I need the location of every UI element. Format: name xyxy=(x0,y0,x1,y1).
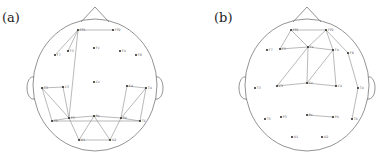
head-outline xyxy=(33,19,157,151)
electrode-label: P4 xyxy=(335,115,339,119)
connection-edge xyxy=(68,30,78,51)
connection-edge xyxy=(333,50,336,86)
electrode-t5 xyxy=(264,118,266,120)
electrode-fp2 xyxy=(112,29,114,31)
connection-edge xyxy=(42,88,69,118)
connection-edge xyxy=(42,88,52,121)
electrode-label: O1 xyxy=(294,135,299,139)
connection-edge xyxy=(307,50,333,83)
electrode-label: T3 xyxy=(256,86,261,90)
electrode-pz xyxy=(306,114,308,116)
electrode-label: F4 xyxy=(335,48,339,52)
connection-edge xyxy=(110,118,121,140)
electrode-fp1 xyxy=(290,29,292,31)
electrode-label: F3 xyxy=(70,49,74,53)
electrode-c4 xyxy=(126,85,128,87)
electrode-label: Pz xyxy=(96,114,100,118)
electrode-p4 xyxy=(332,116,334,118)
electrode-t4 xyxy=(357,87,359,89)
electrode-label: C3 xyxy=(279,84,283,88)
connection-edge xyxy=(348,53,358,88)
electrode-label: Pz xyxy=(309,113,313,117)
electrode-t5 xyxy=(51,120,53,122)
eeg-connectivity-figure: (a)FP1FP2F7F3FzF4F8T3C3CzC4T4T5P3PzP4T6O… xyxy=(0,0,392,166)
electrode-label: P3 xyxy=(283,115,287,119)
electrode-label: O2 xyxy=(324,135,329,139)
electrode-label: FP2 xyxy=(328,28,334,32)
electrode-label: P3 xyxy=(71,116,75,120)
electrode-label: T5 xyxy=(53,119,58,123)
connection-edge xyxy=(307,47,308,83)
electrode-f7 xyxy=(266,49,268,51)
connection-edge xyxy=(121,86,127,118)
eeg-diagram-canvas: (a)FP1FP2F7F3FzF4F8T3C3CzC4T4T5P3PzP4T6O… xyxy=(0,0,392,166)
electrode-t3 xyxy=(254,87,256,89)
electrode-label: Fz xyxy=(310,45,314,49)
electrode-label: P4 xyxy=(123,116,127,120)
connection-edge xyxy=(94,116,110,140)
connection-edge xyxy=(352,88,358,119)
electrode-label: F8 xyxy=(138,53,142,57)
electrode-o2 xyxy=(109,139,111,141)
panel-a: (a)FP1FP2F7F3FzF4F8T3C3CzC4T4T5P3PzP4T6O… xyxy=(2,7,163,151)
electrode-label: T4 xyxy=(359,86,364,90)
electrode-f4 xyxy=(332,49,334,51)
electrode-p3 xyxy=(68,117,70,119)
electrode-label: C4 xyxy=(129,84,133,88)
electrode-label: F7 xyxy=(269,48,273,52)
electrode-o2 xyxy=(321,136,323,138)
electrode-t6 xyxy=(139,120,141,122)
electrode-f4 xyxy=(119,50,121,52)
panel-label: (a) xyxy=(2,10,20,25)
electrode-o1 xyxy=(78,139,80,141)
electrode-p3 xyxy=(280,116,282,118)
connection-edge xyxy=(55,30,78,55)
panel-label: (b) xyxy=(214,10,232,25)
electrode-cz xyxy=(306,82,308,84)
electrode-label: Cz xyxy=(309,81,313,85)
electrode-label: F8 xyxy=(350,51,354,55)
electrode-label: O1 xyxy=(81,138,86,142)
connection-edge xyxy=(291,30,308,47)
electrode-label: O2 xyxy=(112,138,117,142)
electrode-label: Fz xyxy=(96,46,100,50)
electrode-t3 xyxy=(41,87,43,89)
connection-edge xyxy=(69,118,79,140)
electrode-label: C3 xyxy=(65,85,69,89)
electrode-label: FP2 xyxy=(115,28,121,32)
electrode-label: F4 xyxy=(122,49,126,53)
connection-edge xyxy=(79,116,94,140)
connection-edge xyxy=(63,87,69,118)
head-outline xyxy=(245,19,369,151)
electrode-p4 xyxy=(120,117,122,119)
electrode-label: FP1 xyxy=(80,28,86,32)
electrode-f3 xyxy=(279,48,281,50)
electrode-f7 xyxy=(54,54,56,56)
connection-edge xyxy=(326,30,333,50)
electrode-f3 xyxy=(67,50,69,52)
electrode-label: T6 xyxy=(141,119,146,123)
electrode-f8 xyxy=(347,52,349,54)
electrode-fz xyxy=(307,46,309,48)
electrode-label: T5 xyxy=(266,117,271,121)
electrode-c3 xyxy=(276,85,278,87)
electrode-label: F7 xyxy=(57,53,61,57)
electrode-fp1 xyxy=(77,29,79,31)
electrode-f8 xyxy=(135,54,137,56)
electrode-pz xyxy=(93,115,95,117)
connection-edge xyxy=(121,88,146,118)
electrode-label: T4 xyxy=(147,86,152,90)
electrode-label: Cz xyxy=(96,80,100,84)
electrode-t4 xyxy=(145,87,147,89)
electrode-label: T6 xyxy=(353,117,358,121)
electrode-label: FP1 xyxy=(293,28,299,32)
electrode-fp2 xyxy=(325,29,327,31)
electrode-cz xyxy=(93,81,95,83)
electrode-o1 xyxy=(291,136,293,138)
connection-edge xyxy=(140,88,146,121)
electrode-label: F3 xyxy=(282,47,286,51)
electrode-label: T3 xyxy=(43,86,48,90)
electrode-fz xyxy=(93,47,95,49)
connection-edge xyxy=(69,30,78,118)
connection-edge xyxy=(277,47,308,86)
